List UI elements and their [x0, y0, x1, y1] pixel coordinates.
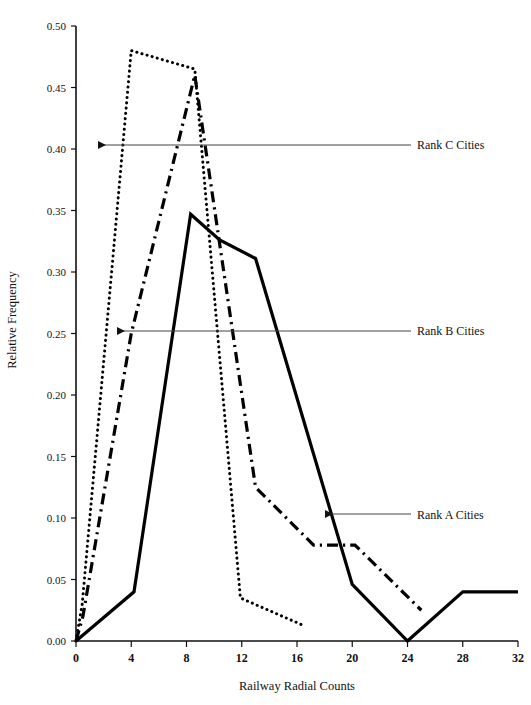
annotation-label-rank-b: Rank B Cities [417, 324, 485, 338]
x-tick-label: 20 [346, 651, 358, 665]
x-tick-label: 8 [184, 651, 190, 665]
y-axis-title: Relative Frequency [5, 270, 19, 368]
y-tick-label: 0.35 [47, 205, 67, 217]
y-tick-label: 0.20 [47, 389, 67, 401]
x-tick-label: 16 [291, 651, 303, 665]
x-axis-title: Railway Radial Counts [239, 679, 355, 693]
x-tick-label: 28 [457, 651, 469, 665]
x-axis-ticks [76, 641, 518, 647]
y-tick-label: 0.30 [47, 266, 67, 278]
annotations-group: Rank C CitiesRank B CitiesRank A Cities [98, 138, 485, 522]
y-tick-label: 0.05 [47, 574, 67, 586]
series-line-rank-a-cities [76, 214, 518, 641]
y-axis-tick-labels: 0.000.050.100.150.200.250.300.350.400.45… [47, 20, 67, 647]
annotation-label-rank-c: Rank C Cities [417, 138, 485, 152]
annotation-label-rank-a: Rank A Cities [417, 508, 484, 522]
series-line-rank-c-cities [76, 51, 305, 641]
x-tick-label: 12 [236, 651, 248, 665]
chart-figure: 0.000.050.100.150.200.250.300.350.400.45… [0, 0, 531, 705]
series-line-rank-b-cities [76, 75, 421, 641]
y-tick-label: 0.15 [47, 451, 67, 463]
y-tick-label: 0.45 [47, 82, 67, 94]
x-axis-tick-labels: 048121620242832 [73, 651, 524, 665]
y-tick-label: 0.40 [47, 143, 67, 155]
x-tick-label: 4 [128, 651, 134, 665]
y-tick-label: 0.00 [47, 635, 67, 647]
y-tick-label: 0.10 [47, 512, 67, 524]
y-tick-label: 0.50 [47, 20, 67, 32]
y-tick-label: 0.25 [47, 328, 67, 340]
chart-canvas: 0.000.050.100.150.200.250.300.350.400.45… [0, 0, 531, 705]
x-tick-label: 0 [73, 651, 79, 665]
x-tick-label: 24 [402, 651, 414, 665]
x-tick-label: 32 [512, 651, 524, 665]
axes-group: 0.000.050.100.150.200.250.300.350.400.45… [47, 20, 524, 665]
